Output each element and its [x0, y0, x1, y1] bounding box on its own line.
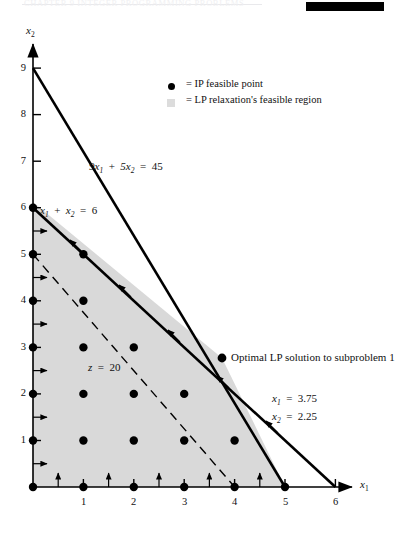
y-tick-label-7: 7 [10, 155, 26, 166]
x-tick-label-5: 5 [278, 496, 293, 507]
y-tick-label-3: 3 [10, 341, 26, 352]
optimal-lp-solution-point [218, 354, 227, 363]
y-tick-label-2: 2 [10, 387, 26, 398]
constraint-label-9x1-5x2-45: 9x1 + 5x2 = 45 [89, 160, 163, 175]
x-tick-label-1: 1 [76, 496, 91, 507]
objective-label-z-20: z = 20 [88, 361, 121, 373]
constraint-label-x1-x2-6: x1 + x2 = 6 [40, 204, 97, 219]
optimal-solution-label: Optimal LP solution to subproblem 1 [231, 351, 395, 363]
y-tick-label-4: 4 [10, 294, 26, 305]
legend-marker-ip-point [168, 83, 175, 90]
legend-label-ip-point: = IP feasible point [186, 78, 263, 89]
x-axis-label: x1 [360, 478, 369, 493]
y-tick-label-5: 5 [10, 248, 26, 259]
y-tick-label-8: 8 [10, 108, 26, 119]
y-axis-label: x2 [26, 24, 35, 39]
x-tick-label-4: 4 [227, 496, 242, 507]
x-tick-label-3: 3 [177, 496, 192, 507]
y-tick-label-9: 9 [10, 62, 26, 73]
x-tick-label-6: 6 [328, 496, 343, 507]
y-tick-label-6: 6 [10, 201, 26, 212]
optimal-solution-x2: x2 = 2.25 [272, 410, 317, 425]
legend-label-lp-region: = LP relaxation's feasible region [186, 94, 322, 105]
x-tick-label-2: 2 [126, 496, 141, 507]
legend-marker-lp-region [167, 99, 175, 107]
optimal-solution-x1: x1 = 3.75 [272, 392, 317, 407]
lp-feasible-region [33, 202, 285, 487]
y-tick-label-1: 1 [10, 434, 26, 445]
